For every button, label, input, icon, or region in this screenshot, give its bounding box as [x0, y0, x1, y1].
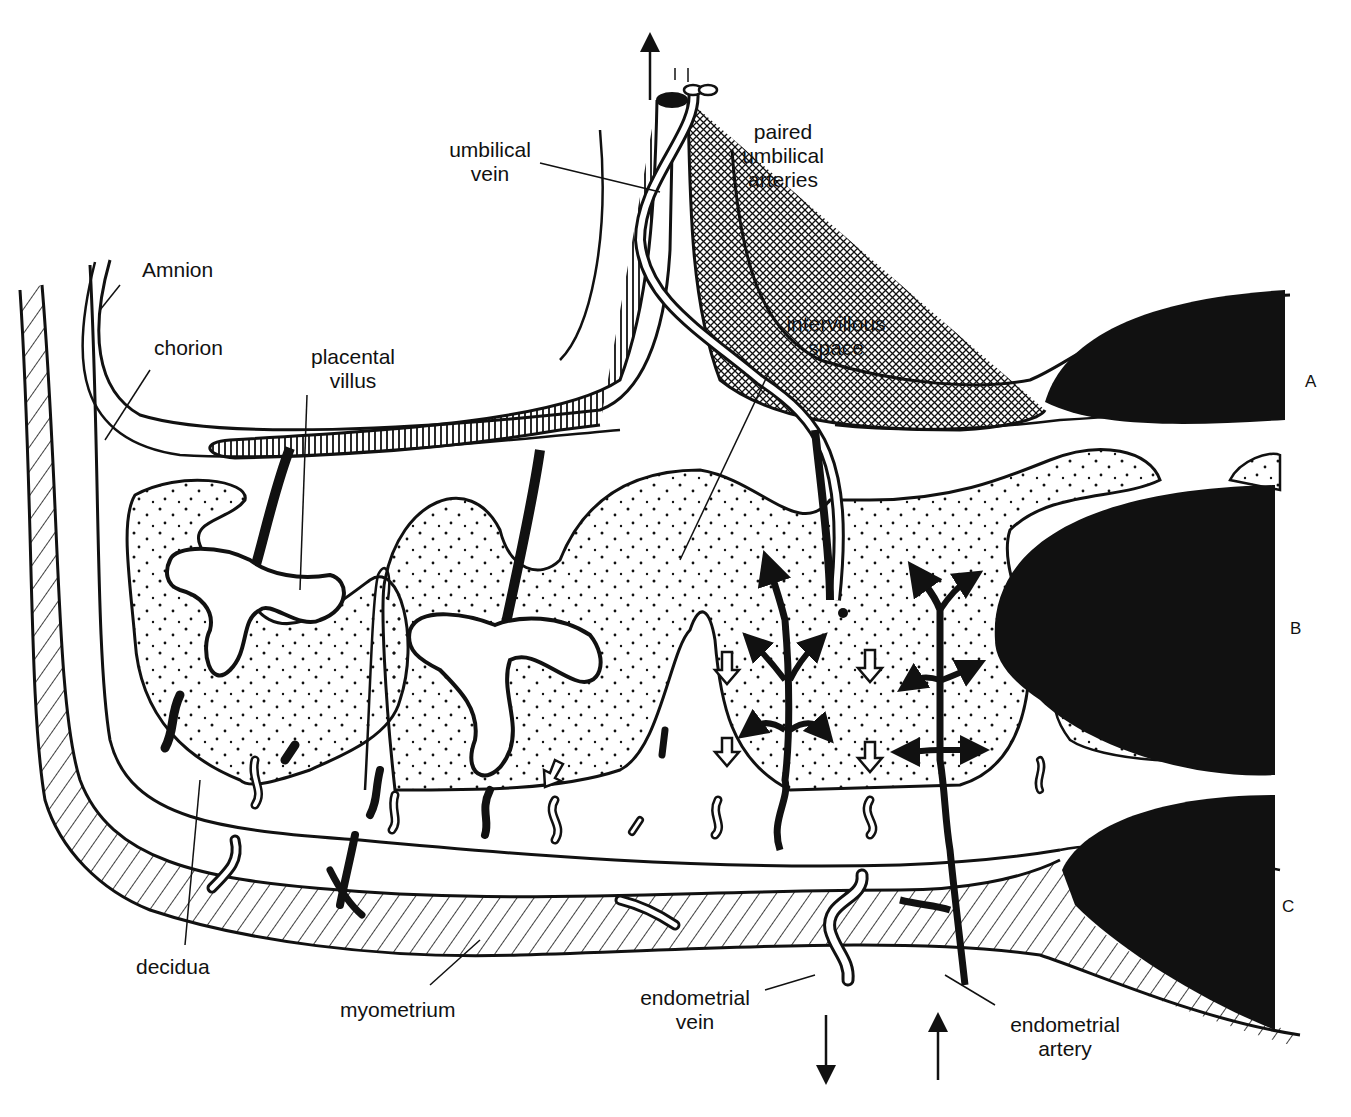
label-placental-villus: placental villus [298, 345, 408, 393]
label-paired-umbilical-arteries: paired umbilical arteries [728, 120, 838, 192]
label-endometrial-artery: endometrial artery [990, 1013, 1140, 1061]
label-chorion: chorion [154, 336, 223, 360]
zone-label-b: B [1290, 617, 1301, 641]
placenta-diagram: umbilical vein paired umbilical arteries… [0, 0, 1351, 1117]
label-umbilical-vein: umbilical vein [435, 138, 545, 186]
label-myometrium: myometrium [340, 998, 456, 1022]
zone-label-a: A [1305, 370, 1316, 394]
bottom-flow-arrows [826, 1015, 938, 1080]
diagram-drawing [0, 0, 1351, 1117]
label-amnion: Amnion [142, 258, 213, 282]
label-endometrial-vein: endometrial vein [620, 986, 770, 1034]
label-decidua: decidua [136, 955, 210, 979]
zone-label-c: C [1282, 895, 1294, 919]
label-intervillous-space: intervillous space [776, 312, 896, 360]
